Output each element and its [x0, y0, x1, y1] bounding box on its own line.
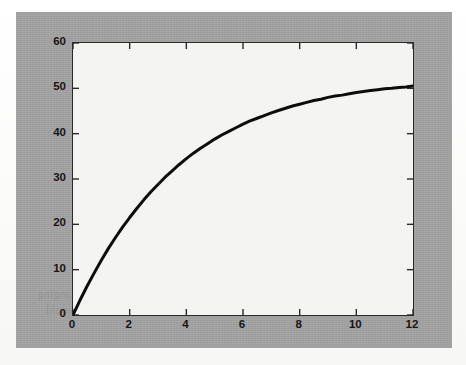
tick-marks — [73, 43, 413, 315]
y-tick-label: 10 — [53, 263, 66, 275]
x-tick-label: 12 — [392, 319, 432, 331]
data-curve — [73, 86, 413, 315]
scanned-figure-page: n changes to 5[ 2 0 0 0 0 ]with the resu… — [0, 0, 466, 365]
x-tick-label: 10 — [335, 319, 375, 331]
x-tick-label: 0 — [52, 319, 92, 331]
y-tick-label: 20 — [53, 217, 66, 229]
x-tick-label: 2 — [109, 319, 149, 331]
plot-canvas — [73, 43, 413, 315]
x-tick-label: 6 — [222, 319, 262, 331]
y-tick-label: 50 — [53, 81, 66, 93]
x-tick-label: 8 — [279, 319, 319, 331]
y-tick-label: 40 — [53, 127, 66, 139]
y-tick-label: 60 — [53, 36, 66, 48]
y-tick-label: 0 — [60, 308, 66, 320]
x-tick-label: 4 — [165, 319, 205, 331]
plot-axes — [72, 42, 414, 316]
y-tick-label: 30 — [53, 172, 66, 184]
